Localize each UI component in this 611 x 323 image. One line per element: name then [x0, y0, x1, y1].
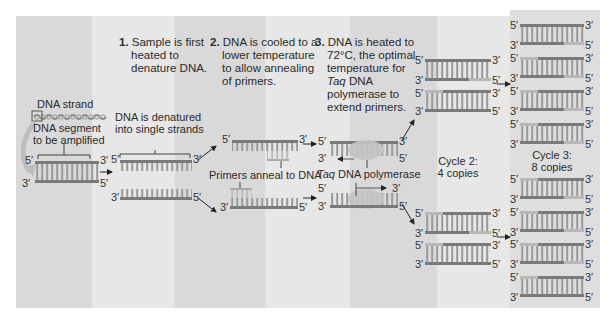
end-label: 5′ — [492, 106, 500, 117]
end-label: 3′ — [220, 202, 228, 213]
end-label: 5′ — [585, 227, 593, 238]
end-label: 3′ — [510, 139, 518, 150]
end-label: 3′ — [415, 228, 423, 239]
end-label: 5′ — [492, 228, 500, 239]
end-label: 3′ — [318, 201, 326, 212]
end-label: 3′ — [585, 20, 593, 31]
end-label: 5′ — [585, 40, 593, 51]
segment-label-2: to be amplified — [33, 134, 105, 146]
end-label: 3′ — [585, 239, 593, 250]
end-label: 5′ — [415, 208, 423, 219]
end-label: 3′ — [100, 155, 108, 166]
step1-caption-2: into single strands — [115, 123, 204, 135]
segment-label-1: DNA segment — [33, 122, 101, 134]
step1-line2: heated to — [131, 49, 179, 62]
end-label: 5′ — [399, 153, 407, 164]
end-label: 3′ — [22, 178, 30, 189]
step1-caption-1: DNA is denatured — [115, 111, 201, 123]
end-label: 3′ — [510, 292, 518, 303]
step3-description: 3. DNA is heated to — [315, 36, 414, 49]
step3-line6: extend primers. — [327, 101, 406, 114]
end-label: 5′ — [415, 88, 423, 99]
end-label: 3′ — [415, 259, 423, 270]
end-label: 5′ — [111, 154, 119, 165]
step2-line3: to allow annealing — [222, 62, 314, 75]
end-label: 5′ — [585, 194, 593, 205]
end-label: 3′ — [510, 259, 518, 270]
cycle3-title-1: Cycle 3: — [520, 149, 584, 161]
step3-line5: polymerase to — [327, 88, 399, 101]
end-label: 5′ — [585, 73, 593, 84]
end-label: 5′ — [585, 106, 593, 117]
end-label: 5′ — [492, 259, 500, 270]
end-label: 3′ — [585, 174, 593, 185]
end-label: 5′ — [510, 174, 518, 185]
end-label: 5′ — [510, 86, 518, 97]
dna-helix-icon — [32, 111, 106, 121]
end-label: 3′ — [415, 106, 423, 117]
end-label: 3′ — [111, 192, 119, 203]
end-label: 5′ — [299, 202, 307, 213]
end-label: 5′ — [510, 239, 518, 250]
end-label: 3′ — [399, 136, 407, 147]
step1-line3: denature DNA. — [131, 62, 207, 75]
end-label: 5′ — [415, 240, 423, 251]
primers-anneal-caption: Primers anneal to DNA — [209, 169, 322, 181]
step3-line2: 72°C, the optimal — [327, 49, 415, 62]
end-label: 3′ — [318, 153, 326, 164]
end-label: 3′ — [510, 73, 518, 84]
end-label: 5′ — [585, 292, 593, 303]
end-label: 5′ — [510, 119, 518, 130]
intro-double-strand — [35, 161, 99, 183]
end-label: 5′ — [318, 183, 326, 194]
end-label: 5′ — [415, 55, 423, 66]
step1-description: 1. Sample is first — [119, 36, 204, 49]
end-label: 3′ — [510, 40, 518, 51]
cycle3-title-2: 8 copies — [520, 161, 584, 173]
end-label: 3′ — [510, 227, 518, 238]
end-label: 3′ — [492, 88, 500, 99]
end-label: 5′ — [222, 134, 230, 145]
end-label: 3′ — [585, 272, 593, 283]
end-label: 3′ — [510, 106, 518, 117]
end-label: 3′ — [492, 55, 500, 66]
end-label: 3′ — [585, 53, 593, 64]
end-label: 5′ — [585, 139, 593, 150]
end-label: 3′ — [585, 207, 593, 218]
step3-line3: temperature for — [327, 62, 406, 75]
end-label: 3′ — [585, 86, 593, 97]
cycle2-title-1: Cycle 2: — [425, 155, 491, 167]
cycle2-title-2: 4 copies — [425, 167, 491, 179]
step2-line4: of primers. — [222, 75, 276, 88]
end-label: 3′ — [492, 240, 500, 251]
step2-description: 2. DNA is cooled to a — [210, 36, 317, 49]
step2-line2: lower temperature — [222, 49, 315, 62]
end-label: 5′ — [399, 201, 407, 212]
end-label: 5′ — [100, 178, 108, 189]
end-label: 3′ — [585, 119, 593, 130]
end-label: 5′ — [193, 192, 201, 203]
end-label: 5′ — [318, 136, 326, 147]
end-label: 3′ — [392, 183, 400, 194]
end-label: 3′ — [193, 154, 201, 165]
end-label: 3′ — [492, 208, 500, 219]
end-label: 5′ — [510, 53, 518, 64]
end-label: 5′ — [25, 155, 33, 166]
end-label: 5′ — [510, 207, 518, 218]
end-label: 5′ — [492, 75, 500, 86]
end-label: 5′ — [585, 259, 593, 270]
dna-strand-label: DNA strand — [37, 98, 93, 110]
end-label: 3′ — [299, 134, 307, 145]
end-label: 3′ — [510, 194, 518, 205]
end-label: 5′ — [510, 20, 518, 31]
end-label: 3′ — [415, 75, 423, 86]
step3-line4: Taq DNA — [327, 75, 373, 88]
taq-polymerase-caption: Taq DNA polymerase — [317, 168, 421, 180]
end-label: 5′ — [510, 272, 518, 283]
